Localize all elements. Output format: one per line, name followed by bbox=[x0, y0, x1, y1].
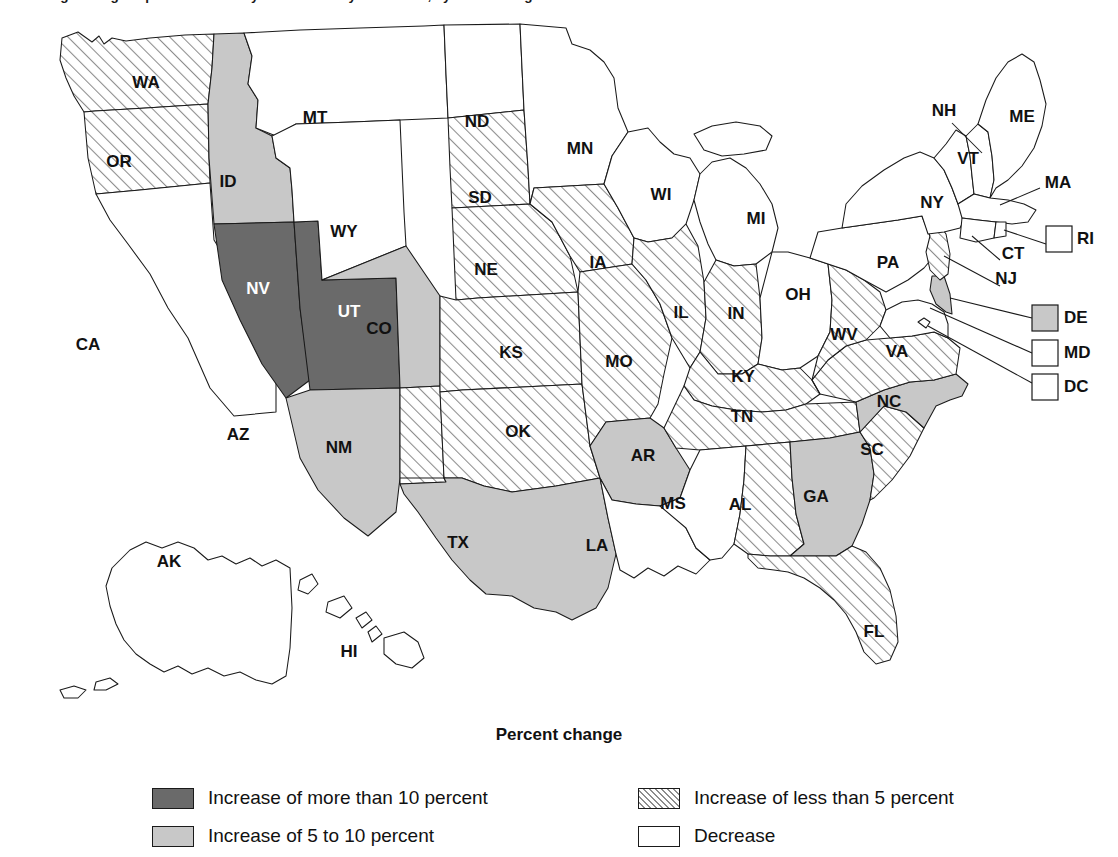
state-AK[interactable] bbox=[106, 542, 292, 684]
state-label-GA: GA bbox=[803, 487, 829, 506]
state-label-NH: NH bbox=[932, 101, 957, 120]
state-label-MS: MS bbox=[660, 494, 686, 513]
state-label-TX: TX bbox=[447, 533, 469, 552]
callout-swatch-DE[interactable] bbox=[1032, 305, 1058, 331]
state-HI[interactable] bbox=[298, 574, 424, 668]
state-label-LA: LA bbox=[586, 536, 609, 555]
state-label-NY: NY bbox=[920, 193, 944, 212]
callout-label-MD: MD bbox=[1064, 343, 1090, 362]
leader-DE bbox=[950, 298, 1032, 318]
state-CT[interactable] bbox=[960, 218, 996, 242]
state-label-OK: OK bbox=[505, 422, 531, 441]
state-label-AK: AK bbox=[157, 552, 182, 571]
leader-RI bbox=[1004, 230, 1046, 244]
state-label-CT: CT bbox=[1002, 244, 1025, 263]
leader-NJ bbox=[944, 256, 1000, 286]
state-label-PA: PA bbox=[877, 253, 899, 272]
state-label-IA: IA bbox=[590, 253, 607, 272]
state-label-IN: IN bbox=[728, 304, 745, 323]
legend-swatch-less-than-5[interactable] bbox=[638, 788, 680, 809]
state-MI[interactable] bbox=[694, 122, 778, 266]
state-label-NC: NC bbox=[877, 392, 902, 411]
state-label-MA: MA bbox=[1045, 173, 1071, 192]
state-label-WV: WV bbox=[830, 325, 858, 344]
page-title: Percentage change in public elementary a… bbox=[4, 0, 1114, 3]
legend-label-5-to-10: Increase of 5 to 10 percent bbox=[208, 825, 628, 847]
state-label-FL: FL bbox=[864, 622, 885, 641]
legend-swatch-decrease[interactable] bbox=[638, 826, 680, 847]
map-svg: WA OR CA ID NV UT AZ MT WY CO NM ND SD N… bbox=[0, 8, 1118, 708]
legend-label-decrease: Decrease bbox=[694, 825, 1032, 847]
state-label-NM: NM bbox=[326, 438, 352, 457]
legend-heading: Percent change bbox=[0, 725, 1118, 745]
state-label-ME: ME bbox=[1009, 107, 1035, 126]
state-label-SC: SC bbox=[860, 440, 884, 459]
callout-swatch-MD[interactable] bbox=[1032, 340, 1058, 366]
state-label-AL: AL bbox=[729, 495, 752, 514]
state-KS[interactable] bbox=[440, 292, 582, 392]
state-label-CA: CA bbox=[76, 335, 101, 354]
legend: Increase of more than 10 percent Increas… bbox=[152, 782, 1032, 852]
state-label-UT: UT bbox=[338, 302, 361, 321]
us-choropleth-map: WA OR CA ID NV UT AZ MT WY CO NM ND SD N… bbox=[0, 8, 1118, 708]
state-FL[interactable] bbox=[748, 546, 898, 664]
state-OR[interactable] bbox=[84, 104, 210, 194]
legend-swatch-more-than-10[interactable] bbox=[152, 788, 194, 809]
map-page: Percentage change in public elementary a… bbox=[0, 0, 1118, 857]
state-label-VT: VT bbox=[957, 149, 979, 168]
state-label-AZ: AZ bbox=[227, 425, 250, 444]
legend-label-more-than-10: Increase of more than 10 percent bbox=[208, 787, 628, 809]
state-label-NJ: NJ bbox=[995, 269, 1017, 288]
state-label-NV: NV bbox=[246, 279, 270, 298]
state-label-NE: NE bbox=[474, 260, 498, 279]
state-MT[interactable] bbox=[244, 25, 448, 136]
state-label-MI: MI bbox=[747, 209, 766, 228]
state-label-WA: WA bbox=[132, 73, 159, 92]
callout-swatch-DC[interactable] bbox=[1032, 374, 1058, 400]
state-AZ[interactable] bbox=[286, 388, 400, 536]
legend-label-less-than-5: Increase of less than 5 percent bbox=[694, 787, 1032, 809]
state-label-MO: MO bbox=[605, 352, 632, 371]
state-label-KY: KY bbox=[731, 367, 755, 386]
state-label-HI: HI bbox=[341, 642, 358, 661]
callout-label-DC: DC bbox=[1064, 377, 1089, 396]
state-label-WY: WY bbox=[330, 222, 358, 241]
state-label-ND: ND bbox=[465, 112, 490, 131]
state-label-OH: OH bbox=[785, 285, 811, 304]
callout-label-DE: DE bbox=[1064, 308, 1088, 327]
state-label-WI: WI bbox=[651, 185, 672, 204]
callout-label-RI: RI bbox=[1077, 229, 1094, 248]
state-WA[interactable] bbox=[60, 32, 214, 112]
leader-MA bbox=[1000, 188, 1040, 205]
state-label-OR: OR bbox=[106, 152, 132, 171]
state-label-IL: IL bbox=[673, 303, 688, 322]
callout-swatch-RI[interactable] bbox=[1046, 226, 1072, 252]
state-label-CO: CO bbox=[366, 319, 392, 338]
state-label-KS: KS bbox=[499, 343, 523, 362]
state-label-MT: MT bbox=[303, 108, 328, 127]
state-label-TN: TN bbox=[731, 407, 754, 426]
state-label-VA: VA bbox=[886, 342, 908, 361]
legend-swatch-5-to-10[interactable] bbox=[152, 826, 194, 847]
state-label-MN: MN bbox=[567, 139, 593, 158]
state-label-SD: SD bbox=[468, 188, 492, 207]
state-NM[interactable] bbox=[400, 386, 446, 484]
state-ND[interactable] bbox=[444, 24, 524, 118]
state-label-ID: ID bbox=[220, 172, 237, 191]
state-AK-aleut[interactable] bbox=[60, 678, 118, 698]
state-TX[interactable] bbox=[400, 478, 616, 620]
state-label-AR: AR bbox=[631, 446, 656, 465]
